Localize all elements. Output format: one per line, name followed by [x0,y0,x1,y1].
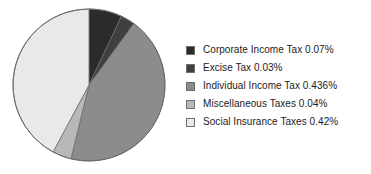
legend-item[interactable]: Social Insurance Taxes 0.42% [186,113,371,131]
legend-color-swatch [186,64,195,73]
pie-slice-group [13,9,165,161]
legend-item[interactable]: Corporate Income Tax 0.07% [186,41,371,59]
legend-color-swatch [186,46,195,55]
legend-item-label: Excise Tax 0.03% [203,62,283,74]
pie-chart-figure: Corporate Income Tax 0.07% Excise Tax 0.… [0,0,371,174]
legend-item-label: Individual Income Tax 0.436% [203,80,337,92]
legend-color-swatch [186,100,195,109]
legend-color-swatch [186,82,195,91]
legend-color-swatch [186,118,195,127]
legend-item-label: Social Insurance Taxes 0.42% [203,116,338,128]
pie-chart-svg [0,0,180,174]
legend-item[interactable]: Miscellaneous Taxes 0.04% [186,95,371,113]
legend-item[interactable]: Individual Income Tax 0.436% [186,77,371,95]
legend-item-label: Corporate Income Tax 0.07% [203,44,334,56]
legend-item[interactable]: Excise Tax 0.03% [186,59,371,77]
chart-legend: Corporate Income Tax 0.07% Excise Tax 0.… [186,41,371,131]
pie-chart-plot-area [0,0,180,174]
legend-item-label: Miscellaneous Taxes 0.04% [203,98,327,110]
